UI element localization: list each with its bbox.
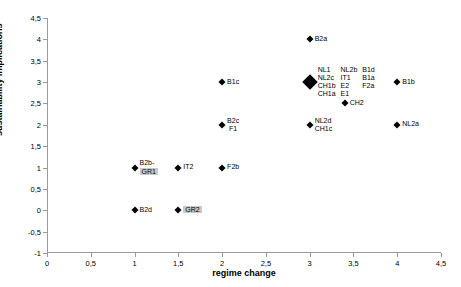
point-label-line: B2a: [315, 35, 327, 43]
point-label-line: NL2c: [318, 74, 336, 82]
y-tick-label: 1,5: [31, 142, 41, 151]
data-point-marker: [395, 80, 400, 85]
x-tick-label: 3,5: [348, 259, 358, 268]
data-point-label: NL1NL2cCH1bCH1aNL2bIT1E2E1B1dB1aF2a: [318, 66, 375, 99]
data-point-label: B2d: [140, 206, 152, 214]
point-label-column: B2a: [315, 35, 327, 43]
point-label-column: NL1NL2cCH1bCH1a: [318, 66, 336, 99]
x-tick-label: 1,5: [173, 259, 183, 268]
y-tick-label: 0,5: [31, 184, 41, 193]
data-point-label: CH2: [350, 99, 364, 107]
x-axis-title: regime change: [47, 268, 441, 278]
point-label-line: B1c: [227, 78, 239, 86]
data-point-label: IT2: [183, 163, 193, 171]
point-label-column: NL2dCH1c: [315, 117, 333, 133]
data-point-marker: [220, 80, 225, 85]
point-label-line: NL2b: [341, 66, 358, 74]
point-label-line: B2d: [140, 206, 152, 214]
data-point-label: B2a: [315, 35, 327, 43]
point-label-column: IT2: [183, 163, 193, 171]
data-point-label: NL2dCH1c: [315, 117, 333, 133]
y-tick-label: 0: [37, 206, 41, 215]
data-point-marker: [132, 165, 137, 170]
x-tick-label: 2: [220, 259, 224, 268]
point-label-line: GR1: [140, 168, 158, 176]
x-tick: [222, 253, 223, 257]
point-label-line: CH2: [350, 99, 364, 107]
point-label-column: B2cF1: [227, 117, 239, 133]
diamond-icon: [341, 100, 348, 107]
point-label-line: IT2: [183, 163, 193, 171]
point-label-column: NL2bIT1E2E1: [341, 66, 358, 99]
point-label-line: GR2: [183, 206, 201, 214]
x-tick-label: 3: [308, 259, 312, 268]
scatter-chart: sustainability implications 00,511,522,5…: [0, 0, 461, 287]
point-label-column: B2d: [140, 206, 152, 214]
diamond-icon: [219, 79, 226, 86]
point-label-line: CH1b: [318, 82, 336, 90]
y-axis-line: [47, 18, 48, 253]
point-label-line: F2a: [362, 82, 374, 90]
data-point-label: B1c: [227, 78, 239, 86]
x-tick: [397, 253, 398, 257]
y-tick-label: 2: [37, 120, 41, 129]
y-axis-title: sustainability implications: [0, 23, 4, 136]
point-label-line: NL2d: [315, 117, 333, 125]
point-label-line: F2b: [227, 163, 239, 171]
point-label-line: F1: [227, 125, 239, 133]
diamond-icon: [131, 207, 138, 214]
point-label-line: NL1: [318, 66, 336, 74]
point-label-column: F2b: [227, 163, 239, 171]
point-label-line: E2: [341, 82, 358, 90]
y-tick-label: -0,5: [28, 227, 41, 236]
point-label-line: B2c: [227, 117, 239, 125]
point-label-line: B1b: [402, 78, 414, 86]
x-tick-label: 0: [45, 259, 49, 268]
y-tick: [43, 146, 47, 147]
y-tick-label: 4,5: [31, 14, 41, 23]
x-tick: [266, 253, 267, 257]
data-point-label: F2b: [227, 163, 239, 171]
point-label-column: GR2: [183, 206, 201, 214]
y-tick-label: -1: [34, 249, 41, 258]
y-tick: [43, 82, 47, 83]
diamond-icon: [175, 164, 182, 171]
data-point-marker: [176, 165, 181, 170]
y-tick: [43, 18, 47, 19]
point-label-column: CH2: [350, 99, 364, 107]
x-tick-label: 2,5: [261, 259, 271, 268]
data-point-label: GR2: [183, 206, 201, 214]
x-tick-label: 1: [132, 259, 136, 268]
x-tick-label: 0,5: [86, 259, 96, 268]
diamond-icon: [394, 121, 401, 128]
point-label-line: IT1: [341, 74, 358, 82]
diamond-icon: [131, 164, 138, 171]
plot-area: 00,511,522,533,544,5 4,543,532,521,510,5…: [47, 18, 441, 253]
x-axis-line: [47, 252, 441, 253]
y-tick: [43, 39, 47, 40]
diamond-icon: [306, 36, 313, 43]
y-tick: [43, 232, 47, 233]
data-point-marker: [342, 101, 347, 106]
y-tick: [43, 189, 47, 190]
data-point-label: NL2a: [402, 120, 419, 128]
x-tick: [91, 253, 92, 257]
diamond-icon: [219, 164, 226, 171]
point-label-line: B1d: [362, 66, 374, 74]
data-point-marker: [176, 208, 181, 213]
point-label-line: E1: [341, 90, 358, 98]
data-point-marker: [395, 122, 400, 127]
data-point-label: B2b-GR1: [140, 159, 158, 175]
point-label-column: NL2a: [402, 120, 419, 128]
y-tick-label: 3,5: [31, 56, 41, 65]
x-tick: [135, 253, 136, 257]
data-point-label: B1b: [402, 78, 414, 86]
x-tick: [47, 253, 48, 257]
data-point-marker: [132, 208, 137, 213]
point-label-line: B2b-: [140, 159, 158, 167]
data-point-marker: [307, 122, 312, 127]
y-tick: [43, 168, 47, 169]
y-tick-label: 1: [37, 163, 41, 172]
y-tick: [43, 125, 47, 126]
x-tick: [310, 253, 311, 257]
